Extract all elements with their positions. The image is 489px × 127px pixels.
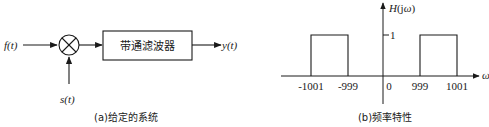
caption-a: (a)给定的系统 bbox=[94, 111, 158, 123]
tick-label: 999 bbox=[412, 80, 429, 92]
positive-passband-pulse bbox=[420, 35, 457, 76]
output-label: y(t) bbox=[221, 39, 238, 52]
tick-label: -999 bbox=[338, 80, 359, 92]
tick-label: 1001 bbox=[446, 80, 468, 92]
caption-b: (b)频率特性 bbox=[358, 111, 412, 123]
level-label: 1 bbox=[390, 29, 396, 41]
frequency-response-plot: ω H(jω) 1 -1001 -999 0 999 1001 (b)频率特性 bbox=[281, 2, 489, 123]
x-axis-label: ω bbox=[482, 69, 489, 81]
bandpass-filter-label: 带通滤波器 bbox=[120, 40, 175, 53]
input-label: f(t) bbox=[4, 39, 18, 52]
negative-passband-pulse bbox=[311, 35, 348, 76]
figure-canvas: f(t) s(t) 带通滤波器 y(t) (a)给定的系统 ω H(jω) 1 … bbox=[0, 0, 489, 127]
carrier-label: s(t) bbox=[60, 93, 75, 106]
y-axis-label: H(jω) bbox=[388, 2, 415, 15]
tick-label: 0 bbox=[386, 80, 392, 92]
system-diagram: f(t) s(t) 带通滤波器 y(t) (a)给定的系统 bbox=[4, 31, 238, 123]
tick-label: -1001 bbox=[298, 80, 324, 92]
multiplier-icon bbox=[59, 35, 79, 55]
